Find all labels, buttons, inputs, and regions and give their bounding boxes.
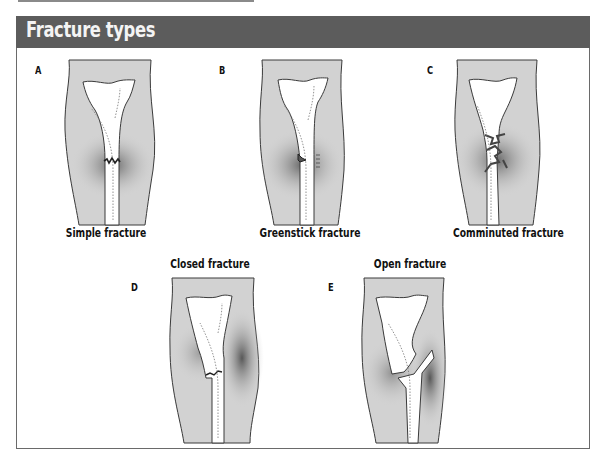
panel-letter: B [219,64,225,77]
panel-caption: Greenstick fracture [258,226,362,240]
figure-title: Fracture types [26,18,155,42]
comminuted-fracture-illustration [455,60,545,225]
simple-fracture-illustration [65,60,165,225]
closed-fracture-illustration [170,278,270,443]
panel-caption: Open fracture [366,257,454,271]
top-strip [18,0,254,2]
panel-caption: Comminuted fracture [453,226,557,240]
open-fracture-illustration [362,278,447,443]
panel-letter: A [35,64,41,77]
panel-letter: C [427,64,433,77]
panel-caption: Closed fracture [166,257,254,271]
greenstick-fracture-illustration [260,60,350,225]
panel-caption: Simple fracture [58,226,154,240]
panel-letter: D [131,281,138,294]
figure-header: Fracture types [16,16,590,48]
panel-letter: E [328,281,334,294]
